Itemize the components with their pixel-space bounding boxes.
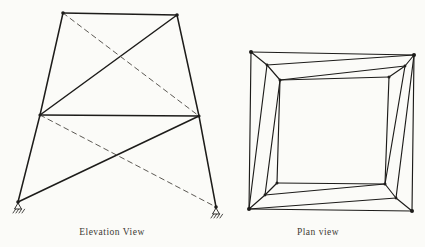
node-dot (266, 64, 269, 67)
hatch-tick (22, 209, 25, 213)
truss-member (385, 77, 389, 184)
truss-member-dashed (40, 115, 216, 207)
truss-member (267, 55, 414, 65)
scanned-page: Elevation View Plan view (0, 0, 425, 247)
truss-member (249, 209, 412, 211)
hatch-tick (220, 214, 223, 218)
hatch-tick (16, 209, 19, 213)
truss-member (267, 65, 280, 80)
truss-member (396, 55, 414, 198)
truss-member (385, 184, 396, 198)
node-dot (410, 209, 414, 213)
truss-member (177, 15, 199, 116)
truss-member (249, 65, 267, 209)
hatch-tick (211, 214, 214, 218)
node-dot (249, 50, 253, 54)
elevation-view-figure (13, 11, 223, 218)
node-dot (404, 65, 407, 68)
truss-diagram-svg (0, 0, 425, 247)
truss-member (412, 55, 414, 211)
truss-member-dashed (63, 13, 199, 116)
node-dot (197, 114, 200, 117)
hatch-tick (19, 209, 22, 213)
hatch-tick (214, 214, 217, 218)
node-dot (264, 194, 267, 197)
truss-member (40, 15, 177, 115)
hatch-tick (217, 214, 220, 218)
plan-view-figure (247, 50, 416, 213)
node-dot (279, 79, 282, 82)
truss-member (249, 198, 396, 209)
truss-member (265, 184, 385, 195)
node-dot (388, 76, 391, 79)
truss-member (251, 52, 267, 65)
node-dot (395, 197, 398, 200)
truss-member (396, 198, 412, 211)
truss-member (63, 13, 177, 15)
truss-member (18, 115, 40, 202)
truss-member (277, 183, 385, 184)
pin-support-icon (13, 203, 25, 213)
node-dot (175, 13, 179, 17)
truss-member (385, 66, 405, 184)
truss-member (249, 195, 265, 209)
hatch-tick (13, 209, 16, 213)
pin-support-icon (211, 208, 223, 218)
truss-member (199, 116, 216, 207)
elevation-view-caption: Elevation View (38, 226, 186, 238)
node-dot (61, 11, 65, 15)
node-dot (384, 183, 387, 186)
truss-member (18, 116, 199, 202)
node-dot (412, 53, 416, 57)
truss-member (40, 13, 63, 115)
truss-member (249, 52, 251, 209)
node-dot (38, 113, 41, 116)
truss-member (40, 115, 199, 116)
plan-view-caption: Plan view (266, 226, 370, 238)
truss-member (251, 52, 414, 55)
node-dot (276, 182, 279, 185)
node-dot (247, 207, 251, 211)
